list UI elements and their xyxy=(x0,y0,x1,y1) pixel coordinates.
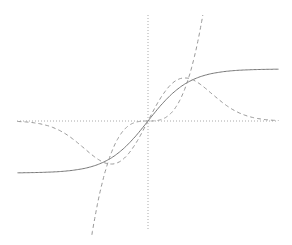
series-line-2 xyxy=(92,15,203,235)
chart xyxy=(0,0,292,245)
